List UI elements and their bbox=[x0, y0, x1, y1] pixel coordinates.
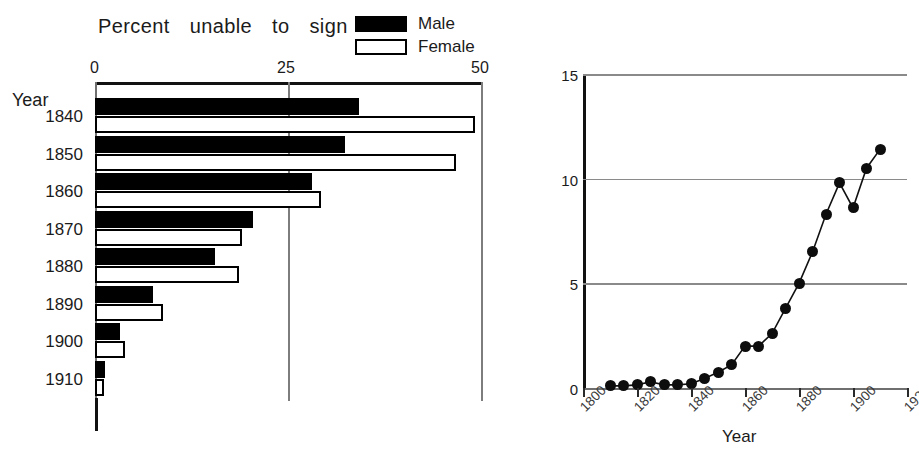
bar-female bbox=[95, 191, 321, 208]
bar-female bbox=[95, 341, 125, 358]
data-point bbox=[767, 328, 778, 339]
right-ytick-labels: 15 10 5 0 bbox=[540, 74, 578, 388]
legend: Male Female bbox=[355, 12, 500, 58]
left-category-label: 1910 bbox=[0, 371, 83, 388]
legend-label-female: Female bbox=[418, 37, 475, 57]
data-point bbox=[699, 373, 710, 384]
bar-female bbox=[95, 154, 456, 171]
data-point bbox=[821, 209, 832, 220]
bar-female bbox=[95, 304, 163, 321]
data-point bbox=[659, 379, 670, 390]
right-ytick-15: 15 bbox=[561, 67, 578, 84]
bar-male bbox=[95, 98, 359, 115]
data-point bbox=[794, 278, 805, 289]
right-ytick-5: 5 bbox=[570, 276, 578, 293]
legend-item-female: Female bbox=[355, 35, 500, 58]
left-yaxis-label: Year bbox=[12, 91, 48, 109]
left-category-label: 1840 bbox=[0, 108, 83, 125]
legend-item-male: Male bbox=[355, 12, 500, 35]
left-axis-stub bbox=[95, 398, 98, 431]
left-category-label: 1850 bbox=[0, 146, 83, 163]
bar-group bbox=[95, 361, 483, 398]
data-point bbox=[740, 341, 751, 352]
left-xtick-25: 25 bbox=[277, 60, 295, 76]
left-xtick-50: 50 bbox=[471, 60, 489, 76]
data-point bbox=[780, 303, 791, 314]
left-chart: Percent unable to sign Male Female 0 25 … bbox=[0, 0, 510, 457]
data-point bbox=[713, 367, 724, 378]
legend-swatch-male-icon bbox=[355, 16, 407, 32]
bar-group bbox=[95, 286, 483, 323]
bar-male bbox=[95, 211, 253, 228]
legend-swatch-female-icon bbox=[355, 39, 407, 55]
left-plot-area bbox=[95, 82, 483, 401]
bar-male bbox=[95, 173, 312, 190]
right-ytick-0: 0 bbox=[570, 381, 578, 398]
left-chart-title: Percent unable to sign bbox=[98, 16, 348, 36]
bar-female bbox=[95, 266, 239, 283]
legend-label-male: Male bbox=[418, 14, 455, 34]
bar-group bbox=[95, 323, 483, 360]
bar-group bbox=[95, 98, 483, 135]
left-xtick-0: 0 bbox=[90, 60, 99, 76]
bar-male bbox=[95, 136, 345, 153]
left-category-label: 1890 bbox=[0, 296, 83, 313]
bar-group bbox=[95, 173, 483, 210]
bar-group bbox=[95, 248, 483, 285]
data-point bbox=[753, 341, 764, 352]
bar-female bbox=[95, 116, 475, 133]
bar-female bbox=[95, 379, 104, 396]
bar-male bbox=[95, 323, 120, 340]
bar-male bbox=[95, 248, 215, 265]
bar-male bbox=[95, 286, 153, 303]
bar-female bbox=[95, 229, 242, 246]
left-category-label: 1870 bbox=[0, 221, 83, 238]
left-category-label: 1880 bbox=[0, 258, 83, 275]
right-ytick-10: 10 bbox=[561, 172, 578, 189]
bar-group bbox=[95, 136, 483, 173]
bar-male bbox=[95, 361, 105, 378]
data-point bbox=[861, 163, 872, 174]
left-category-label: 1900 bbox=[0, 333, 83, 350]
data-point bbox=[875, 144, 886, 155]
right-plot-area: 1800182018401860188019001920 bbox=[583, 74, 907, 388]
left-category-label: 1860 bbox=[0, 183, 83, 200]
figure-root: Percent unable to sign Male Female 0 25 … bbox=[0, 0, 919, 457]
data-point bbox=[848, 202, 859, 213]
right-xaxis-label: Year bbox=[722, 428, 756, 445]
bar-group bbox=[95, 211, 483, 248]
